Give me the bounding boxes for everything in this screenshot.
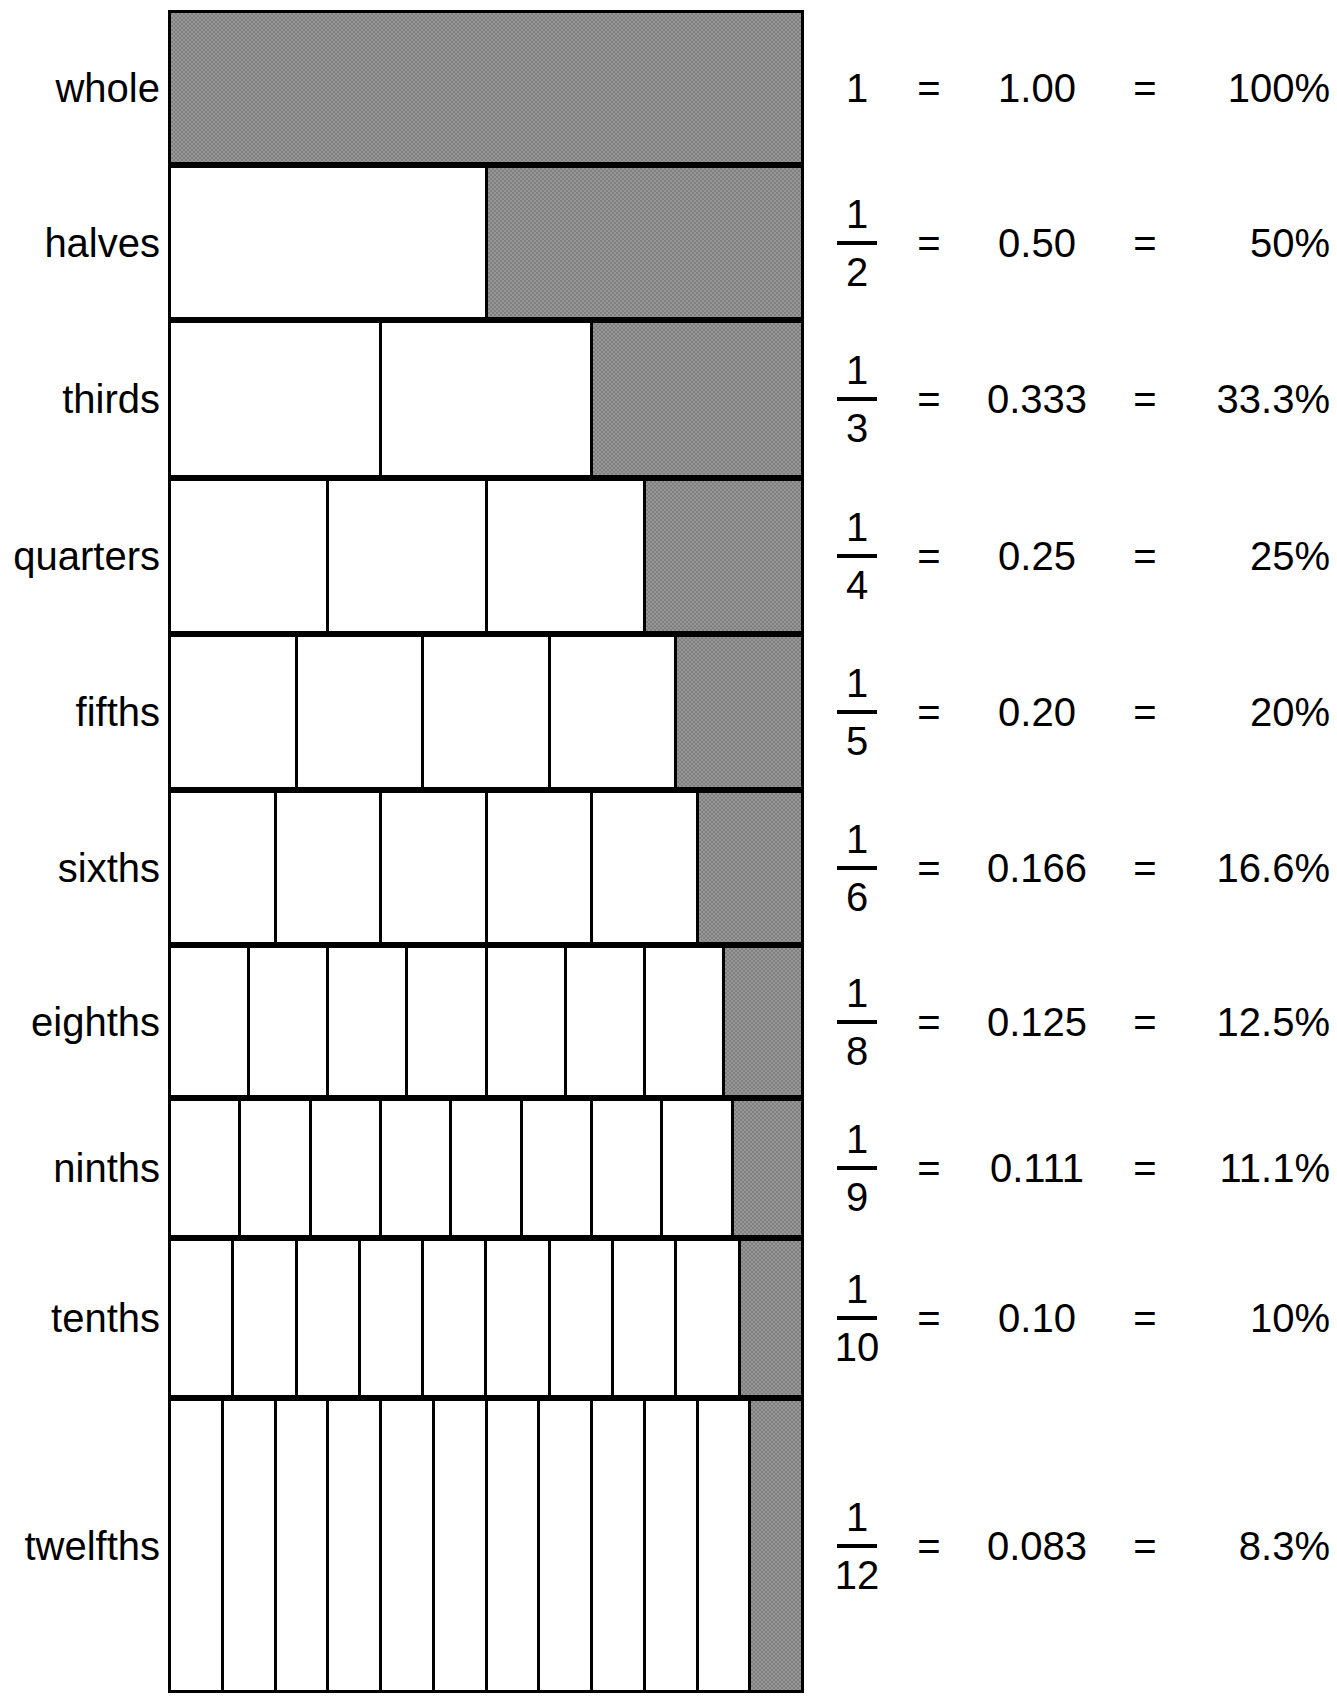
bar-cell-shaded [646,481,801,631]
equals-sign-2: = [1112,692,1178,732]
bar-cell [567,948,646,1095]
fraction-row: tenths110=0.10=10% [0,1238,1337,1398]
fraction-bar-line-icon [837,1316,877,1320]
percent-value: 20% [1178,692,1330,732]
bar-cell-shaded [677,637,801,787]
bar-cell [551,637,678,787]
equation-thirds: 13=0.333=33.3% [818,320,1337,478]
fraction-bar-sixths [168,790,804,945]
bar-cell [298,637,425,787]
fraction-numerator: 1 [846,347,868,393]
equals-sign-1: = [896,379,962,419]
bar-cell [171,323,382,475]
fraction-notation: 15 [818,660,896,764]
decimal-value: 0.166 [962,848,1112,888]
equals-sign-1: = [896,68,962,108]
decimal-value: 0.125 [962,1002,1112,1042]
equals-sign-1: = [896,692,962,732]
fraction-bar-line-icon [837,554,877,558]
fraction-row: sixths16=0.166=16.6% [0,790,1337,945]
fraction-bar-thirds [168,320,804,478]
bar-cell [646,1401,699,1690]
bar-cell-shaded [488,168,802,317]
equation-tenths: 110=0.10=10% [818,1238,1337,1398]
equals-sign-1: = [896,1526,962,1566]
bar-cell [171,637,298,787]
percent-value: 11.1% [1178,1148,1330,1188]
fraction-bar-quarters [168,478,804,634]
fraction-bar-line-icon [837,866,877,870]
fraction-notation: 13 [818,347,896,451]
percent-value: 33.3% [1178,379,1330,419]
fraction-denominator: 12 [835,1552,880,1598]
decimal-value: 0.50 [962,223,1112,263]
bar-cell-shaded [593,323,801,475]
equation-twelfths: 112=0.083=8.3% [818,1398,1337,1693]
fraction-denominator: 6 [846,874,868,920]
equation-whole: 1=1.00=100% [818,10,1337,165]
bar-cell [241,1101,311,1235]
percent-value: 50% [1178,223,1330,263]
fraction-numerator: 1 [846,970,868,1016]
fraction-denominator: 4 [846,562,868,608]
decimal-value: 0.25 [962,536,1112,576]
equation-halves: 12=0.50=50% [818,165,1337,320]
fraction-notation: 12 [818,191,896,295]
percent-value: 100% [1178,68,1330,108]
fraction-notation: 110 [818,1266,896,1370]
equals-sign-2: = [1112,848,1178,888]
equals-sign-2: = [1112,1298,1178,1338]
decimal-value: 0.20 [962,692,1112,732]
fraction-bar-whole [168,10,804,165]
bar-cell [614,1241,677,1395]
bar-cell [382,1101,452,1235]
bar-cell [171,1101,241,1235]
bar-cell [298,1241,361,1395]
bar-cell [171,481,329,631]
row-label-twelfths: twelfths [0,1526,160,1566]
fraction-notation: 1 [818,65,896,111]
equals-sign-1: = [896,1298,962,1338]
equals-sign-2: = [1112,1148,1178,1188]
fraction-bar-eighths [168,945,804,1098]
fraction-row: eighths18=0.125=12.5% [0,945,1337,1098]
bar-cell-shaded [741,1241,801,1395]
fraction-row: twelfths112=0.083=8.3% [0,1398,1337,1693]
bar-cell-shaded [725,948,801,1095]
decimal-value: 1.00 [962,68,1112,108]
bar-cell [488,948,567,1095]
fraction-numerator: 1 [846,191,868,237]
fraction-bar-ninths [168,1098,804,1238]
fraction-row: quarters14=0.25=25% [0,478,1337,634]
bar-cell [487,1241,550,1395]
equals-sign-2: = [1112,68,1178,108]
row-label-fifths: fifths [0,692,160,732]
bar-cell [224,1401,277,1690]
bar-cell-shaded [751,1401,801,1690]
row-label-halves: halves [0,223,160,263]
percent-value: 10% [1178,1298,1330,1338]
bar-cell [171,1401,224,1690]
fraction-bar-tenths [168,1238,804,1398]
bar-cell-shaded [171,13,801,162]
fraction-notation: 18 [818,970,896,1074]
bar-cell [540,1401,593,1690]
fraction-numerator: 1 [846,1116,868,1162]
equation-quarters: 14=0.25=25% [818,478,1337,634]
fraction-notation: 19 [818,1116,896,1220]
fraction-denominator: 5 [846,718,868,764]
bar-cell [277,793,383,942]
fraction-bar-line-icon [837,397,877,401]
bar-cell [171,793,277,942]
bar-cell [646,948,725,1095]
fraction-bar-line-icon [837,710,877,714]
bar-cell [424,1241,487,1395]
decimal-value: 0.083 [962,1526,1112,1566]
row-label-eighths: eighths [0,1002,160,1042]
bar-cell [699,1401,752,1690]
bar-cell [663,1101,733,1235]
row-label-whole: whole [0,68,160,108]
bar-cell [488,481,646,631]
fraction-denominator: 3 [846,405,868,451]
fraction-numerator: 1 [846,1266,868,1312]
